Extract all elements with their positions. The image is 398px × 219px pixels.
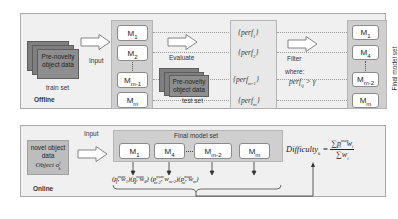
formula-lhs: Difficultyk =: [286, 144, 328, 156]
connector-filter-2: [277, 52, 347, 53]
test-data-line2: object data: [170, 86, 208, 94]
train-set-caption: train set: [46, 84, 69, 91]
online-panel: novel object data Object oik Input Final…: [20, 125, 386, 197]
model-box-1: M1: [117, 25, 148, 41]
filter-label: Filter: [287, 55, 301, 62]
train-data-line2: object data: [38, 61, 78, 69]
model-column: M1 M2 Mm-1 Mm: [111, 20, 153, 109]
perf-item-1: {perf1}: [238, 28, 259, 39]
final-set-vertical-label: Final model set: [391, 44, 398, 94]
online-section-label: Online: [33, 185, 53, 192]
connector-1: [153, 32, 231, 33]
filter-arrow-icon: [287, 36, 319, 52]
pair-1: (pmax1, w1): [112, 175, 130, 183]
perf-item-2: {perf2}: [238, 48, 259, 59]
evaluate-arrow-icon: [167, 34, 199, 50]
pairs-row: (pmax1, w1)(pmax4, w4) (pmaxm-2, wm-2)(p…: [112, 174, 199, 185]
offline-section-label: Offline: [34, 96, 55, 103]
model-ellipsis: [132, 62, 133, 71]
train-data-line1: Pre-novelty: [38, 53, 78, 61]
test-set-caption: test set: [182, 97, 203, 104]
input-label: Input: [89, 57, 103, 64]
formula-numerator: ∑pmaxiwi: [330, 138, 354, 150]
where-label: where:: [285, 68, 305, 75]
pair-m-2: (pmaxm-2, wm-2): [150, 175, 178, 183]
connector-filter-1: [277, 32, 347, 33]
connector-filter-4: [277, 100, 347, 101]
pair-m: (pmaxm, wm): [178, 175, 198, 183]
final-model-ellipsis: [365, 61, 366, 71]
final-model-column: M1 M4 Mm-2 Mm Final model set: [347, 20, 387, 109]
final-model-box-4: M4: [352, 45, 379, 60]
final-model-box-m: Mm: [352, 93, 379, 108]
connector-2: [153, 52, 231, 53]
perf-item-m-1: {perfm-1}: [233, 75, 259, 86]
pair-4: (pmax4, w4): [130, 175, 148, 183]
perf-column: {perf1} {perf2} {perfm-1} {perfm}: [230, 20, 277, 109]
evaluate-label: Evaluate: [169, 54, 194, 61]
difficulty-formula: Difficultyk = ∑pmaxiwi ∑wi: [286, 138, 354, 161]
model-box-2: M2: [117, 45, 148, 61]
model-box-m-1: Mm-1: [117, 72, 148, 88]
train-data-card: Pre-novelty object data: [37, 49, 79, 79]
offline-panel: Pre-novelty object data train set Input …: [20, 13, 386, 109]
test-data-line1: Pre-novelty: [170, 78, 208, 86]
final-model-box-m-2: Mm-2: [352, 72, 379, 87]
final-model-box-1: M1: [352, 25, 379, 40]
formula-fraction: ∑pmaxiwi ∑wi: [330, 138, 354, 161]
model-box-m: Mm: [117, 92, 148, 108]
input-arrow-icon: [80, 34, 112, 50]
filter-condition: perfij > γ: [289, 77, 316, 88]
test-data-card: Pre-novelty object data: [169, 75, 209, 97]
perf-item-m: {perfm}: [238, 96, 260, 107]
online-down-arrows-icon: [21, 126, 387, 198]
formula-denominator: ∑wi: [336, 150, 348, 161]
